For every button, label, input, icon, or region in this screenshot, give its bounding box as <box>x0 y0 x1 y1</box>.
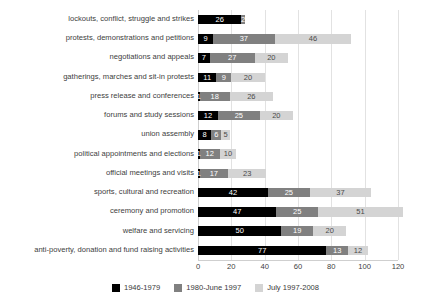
bar-segment-2[interactable]: 5 <box>221 130 229 140</box>
bar-row[interactable]: 262 <box>198 10 245 29</box>
bar-row[interactable]: 865 <box>198 125 230 144</box>
bar-value-label: 5 <box>223 131 227 139</box>
bar-segment-1[interactable]: 2 <box>241 15 244 25</box>
bar-row[interactable]: 501920 <box>198 222 346 241</box>
bar-value-label: 20 <box>272 112 280 120</box>
bar-segment-0[interactable]: 7 <box>198 53 210 63</box>
bar-value-label: 20 <box>325 227 333 235</box>
bar-row[interactable]: 93746 <box>198 29 351 48</box>
stacked-bar: 93746 <box>198 34 351 44</box>
bar-segment-0[interactable]: 1 <box>198 149 200 159</box>
gridline-120 <box>398 10 399 260</box>
stacked-bar: 72720 <box>198 53 288 63</box>
bar-row[interactable]: 122520 <box>198 106 293 125</box>
bar-segment-1[interactable]: 6 <box>211 130 221 140</box>
bar-segment-0[interactable]: 42 <box>198 188 268 198</box>
bar-value-label: 46 <box>309 35 317 43</box>
bar-segment-2[interactable]: 20 <box>260 111 293 121</box>
stacked-bar: 422537 <box>198 188 371 198</box>
bar-value-label: 47 <box>233 208 241 216</box>
bar-value-label: 1 <box>197 170 201 178</box>
bar-segment-1[interactable]: 25 <box>276 207 318 217</box>
bar-value-label: 20 <box>244 74 252 82</box>
chart-legend: 1946-19791980-June 1997July 1997-2008 <box>0 283 431 292</box>
bar-value-label: 7 <box>202 54 206 62</box>
bar-segment-1[interactable]: 25 <box>218 111 260 121</box>
stacked-bar: 11920 <box>198 73 265 83</box>
legend-item[interactable]: July 1997-2008 <box>255 283 319 292</box>
category-label: union assembly <box>0 130 194 138</box>
bar-value-label: 13 <box>333 247 341 255</box>
stacked-bar: 262 <box>198 15 245 25</box>
bar-segment-1[interactable]: 19 <box>281 226 313 236</box>
bar-segment-2[interactable]: 20 <box>313 226 346 236</box>
x-tick-label: 20 <box>227 262 235 271</box>
category-label: lockouts, conflict, struggle and strikes <box>0 15 194 23</box>
bar-value-label: 20 <box>267 54 275 62</box>
bar-value-label: 26 <box>215 16 223 24</box>
bar-segment-2[interactable]: 20 <box>231 73 264 83</box>
bar-segment-1[interactable]: 25 <box>268 188 310 198</box>
bar-row[interactable]: 11723 <box>198 164 266 183</box>
bar-segment-1[interactable]: 27 <box>210 53 255 63</box>
bar-segment-0[interactable]: 8 <box>198 130 211 140</box>
bar-segment-0[interactable]: 47 <box>198 207 276 217</box>
category-label: official meetings and visits <box>0 169 194 177</box>
bar-segment-1[interactable]: 13 <box>326 246 348 256</box>
bar-segment-1[interactable]: 37 <box>213 34 275 44</box>
bar-segment-2[interactable]: 26 <box>230 92 273 102</box>
bar-row[interactable]: 472551 <box>198 202 403 221</box>
bar-segment-2[interactable]: 20 <box>255 53 288 63</box>
bar-segment-2[interactable]: 46 <box>275 34 352 44</box>
legend-item[interactable]: 1946-1979 <box>112 283 160 292</box>
x-tick-label: 80 <box>327 262 335 271</box>
bar-value-label: 11 <box>203 74 211 82</box>
plot-area: 2629374672720119201182612252086511210117… <box>198 10 398 260</box>
bar-value-label: 9 <box>203 35 207 43</box>
bar-segment-1[interactable]: 17 <box>200 169 228 179</box>
bar-value-label: 26 <box>247 93 255 101</box>
bar-segment-2[interactable]: 51 <box>318 207 403 217</box>
bar-row[interactable]: 11920 <box>198 68 265 87</box>
bar-value-label: 12 <box>354 247 362 255</box>
legend-swatch-icon <box>112 284 120 292</box>
bar-segment-0[interactable]: 11 <box>198 73 216 83</box>
bar-segment-2[interactable]: 10 <box>220 149 237 159</box>
bar-segment-0[interactable]: 50 <box>198 226 281 236</box>
stacked-bar-chart: 2629374672720119201182612252086511210117… <box>0 0 431 305</box>
bar-segment-0[interactable]: 12 <box>198 111 218 121</box>
category-label: anti-poverty, donation and fund raising … <box>0 246 194 254</box>
bar-row[interactable]: 72720 <box>198 48 288 67</box>
bar-value-label: 2 <box>241 16 245 24</box>
bar-segment-0[interactable]: 1 <box>198 92 200 102</box>
bar-row[interactable]: 422537 <box>198 183 371 202</box>
bar-value-label: 51 <box>356 208 364 216</box>
bar-segment-0[interactable]: 77 <box>198 246 326 256</box>
bar-segment-1[interactable]: 18 <box>200 92 230 102</box>
bar-row[interactable]: 771312 <box>198 241 368 260</box>
bar-segment-0[interactable]: 26 <box>198 15 241 25</box>
legend-swatch-icon <box>174 284 182 292</box>
bar-value-label: 1 <box>197 150 201 158</box>
bar-row[interactable]: 11826 <box>198 87 273 106</box>
legend-item[interactable]: 1980-June 1997 <box>174 283 241 292</box>
legend-label: 1946-1979 <box>124 283 160 292</box>
bar-value-label: 10 <box>224 150 232 158</box>
bar-segment-0[interactable]: 1 <box>198 169 200 179</box>
x-tick-label: 40 <box>260 262 268 271</box>
stacked-bar: 472551 <box>198 207 403 217</box>
bar-row[interactable]: 11210 <box>198 145 236 164</box>
legend-label: July 1997-2008 <box>267 283 319 292</box>
bar-segment-2[interactable]: 12 <box>348 246 368 256</box>
bar-segment-2[interactable]: 23 <box>228 169 266 179</box>
bar-segment-0[interactable]: 9 <box>198 34 213 44</box>
bar-segment-1[interactable]: 9 <box>216 73 231 83</box>
legend-label: 1980-June 1997 <box>186 283 241 292</box>
bar-segment-1[interactable]: 12 <box>200 149 220 159</box>
bar-segment-2[interactable]: 37 <box>310 188 372 198</box>
bar-value-label: 18 <box>210 93 218 101</box>
legend-swatch-icon <box>255 284 263 292</box>
bar-value-label: 25 <box>285 189 293 197</box>
bar-value-label: 12 <box>205 150 213 158</box>
bar-value-label: 50 <box>235 227 243 235</box>
